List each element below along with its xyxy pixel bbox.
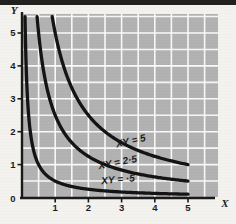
x-tick-label: 3	[119, 202, 124, 213]
figure-canvas: 012345 12345 Y X XY = 5XY = 2·5XY = ·5	[0, 0, 236, 224]
y-tick-label: 5	[10, 27, 16, 38]
hyperbola-chart: 012345 12345 Y X XY = 5XY = 2·5XY = ·5	[0, 0, 236, 224]
x-tick-label: 0	[10, 193, 15, 204]
y-tick-label: 3	[10, 93, 15, 104]
x-axis-label: X	[220, 197, 229, 209]
x-tick-label: 4	[152, 202, 158, 213]
y-axis-label: Y	[11, 4, 19, 16]
x-tick-label: 1	[53, 202, 59, 213]
x-tick-label: 2	[86, 202, 91, 213]
y-tick-label: 1	[10, 159, 16, 170]
y-tick-label: 2	[10, 126, 15, 137]
y-axis-ticks: 12345	[10, 27, 22, 170]
y-tick-label: 4	[10, 60, 16, 71]
x-tick-label: 5	[185, 202, 191, 213]
